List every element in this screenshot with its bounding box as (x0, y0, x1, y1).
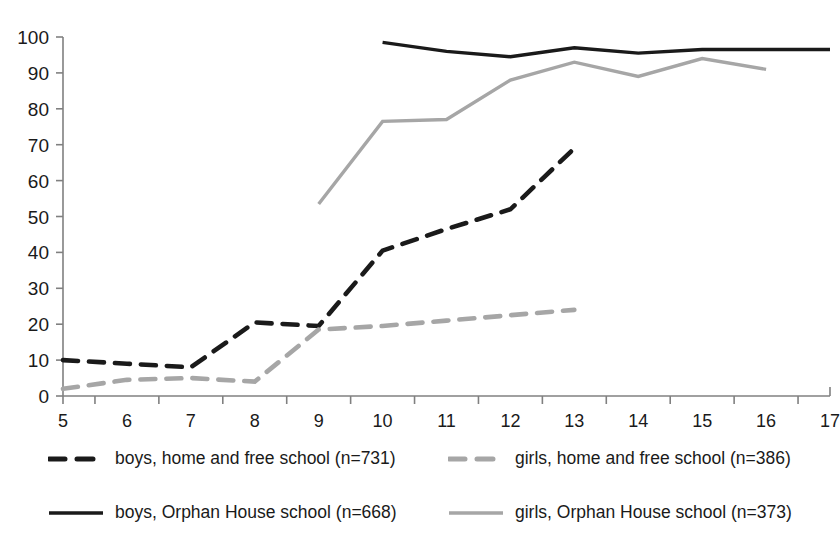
x-tick-label: 8 (250, 411, 260, 430)
line-chart: 0102030405060708090100 56789101112131415… (0, 0, 840, 543)
chart-legend: boys, home and free school (n=731)girls,… (0, 432, 840, 543)
legend-swatch-icon (48, 452, 104, 466)
series-line-1 (63, 310, 574, 389)
legend-swatch-icon (48, 506, 104, 520)
x-axis-labels: 567891011121314151617 (58, 411, 840, 430)
x-tick-label: 17 (820, 411, 840, 430)
legend-swatch-icon (448, 506, 504, 520)
series-line-0 (63, 148, 574, 367)
y-tick-label: 50 (28, 207, 49, 228)
legend-item[interactable]: boys, Orphan House school (n=668) (48, 504, 448, 522)
y-tick-label: 10 (28, 350, 49, 371)
legend-item-label: boys, Orphan House school (n=668) (115, 504, 397, 522)
legend-item-label: girls, home and free school (n=386) (515, 450, 791, 468)
y-tick-label: 30 (28, 278, 49, 299)
y-tick-label: 60 (28, 171, 49, 192)
x-tick-label: 13 (564, 411, 584, 430)
x-tick-label: 14 (628, 411, 648, 430)
x-tick-label: 7 (186, 411, 196, 430)
series-line-3 (319, 59, 766, 204)
y-tick-label: 0 (38, 386, 49, 407)
plot-area: 0102030405060708090100 56789101112131415… (0, 0, 840, 430)
x-tick-label: 16 (756, 411, 776, 430)
y-tick-label: 40 (28, 242, 49, 263)
legend-item[interactable]: boys, home and free school (n=731) (48, 450, 448, 468)
data-series-layer (63, 42, 830, 388)
legend-item[interactable]: girls, home and free school (n=386) (448, 450, 840, 468)
y-tick-label: 80 (28, 99, 49, 120)
y-tick-label: 70 (28, 135, 49, 156)
plot-svg: 0102030405060708090100 56789101112131415… (0, 0, 840, 430)
x-tick-label: 15 (692, 411, 712, 430)
y-axis-labels: 0102030405060708090100 (17, 27, 49, 407)
x-tick-label: 10 (373, 411, 393, 430)
legend-item-label: girls, Orphan House school (n=373) (515, 504, 792, 522)
y-tick-label: 20 (28, 314, 49, 335)
legend-swatch-icon (448, 452, 504, 466)
y-tick-label: 100 (17, 27, 49, 48)
y-axis-ticks (56, 37, 63, 396)
x-tick-label: 11 (437, 411, 456, 430)
x-tick-label: 12 (500, 411, 520, 430)
x-tick-label: 5 (58, 411, 68, 430)
x-tick-label: 9 (314, 411, 324, 430)
x-tick-label: 6 (122, 411, 132, 430)
series-line-2 (383, 42, 830, 56)
y-tick-label: 90 (28, 63, 49, 84)
legend-item[interactable]: girls, Orphan House school (n=373) (448, 504, 840, 522)
legend-item-label: boys, home and free school (n=731) (115, 450, 396, 468)
